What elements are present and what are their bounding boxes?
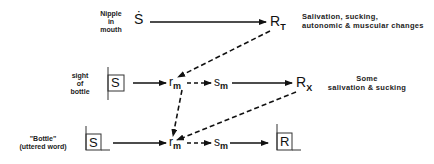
response-r: R bbox=[280, 135, 289, 149]
response-rx: RX bbox=[296, 75, 312, 95]
stimulus-label-nipple: Nipple in mouth bbox=[96, 10, 126, 34]
dashed-rm2-to-rm3 bbox=[173, 90, 182, 136]
label-line: Nipple bbox=[96, 10, 126, 18]
unconditioned-stimulus: Ṡ bbox=[134, 12, 143, 26]
mediator-r-sub: m bbox=[173, 81, 181, 91]
mediator-s-sub: m bbox=[220, 81, 228, 91]
response-rt: RT bbox=[270, 14, 286, 34]
label-line: sight bbox=[66, 72, 94, 80]
mediator-r-sub: m bbox=[173, 141, 181, 151]
label-line: mouth bbox=[96, 26, 126, 34]
dashed-rt-to-rm2 bbox=[178, 31, 270, 77]
desc-line: Some bbox=[327, 74, 407, 83]
mediator-sm-row3: sm bbox=[214, 135, 228, 153]
mediator-rm-row3: rm bbox=[169, 135, 181, 153]
desc-line: salivation & sucking bbox=[327, 83, 407, 92]
response-symbol: R bbox=[270, 13, 280, 29]
mediator-s-sub: m bbox=[220, 141, 228, 151]
response-rx-description: Some salivation & sucking bbox=[327, 74, 407, 92]
label-line: "Bottle" bbox=[12, 135, 74, 143]
response-symbol: R bbox=[296, 74, 306, 90]
label-line: in bbox=[96, 18, 126, 26]
response-rt-description: Salivation, sucking, autonomic & muscula… bbox=[302, 12, 424, 30]
label-line: of bbox=[66, 80, 94, 88]
label-line: bottle bbox=[66, 88, 94, 96]
response-subscript: T bbox=[280, 22, 286, 32]
stimulus-label-bottle-word: "Bottle" (uttered word) bbox=[12, 135, 74, 151]
stimulus-s-word: S bbox=[89, 136, 98, 150]
label-line: (uttered word) bbox=[12, 143, 74, 151]
stimulus-s-sight: S bbox=[111, 76, 120, 90]
desc-line: autonomic & muscular changes bbox=[302, 21, 424, 30]
mediator-sm-row2: sm bbox=[214, 75, 228, 93]
response-subscript: X bbox=[306, 83, 312, 93]
desc-line: Salivation, sucking, bbox=[302, 12, 424, 21]
stimulus-label-sight: sight of bottle bbox=[66, 72, 94, 96]
mediator-rm-row2: rm bbox=[169, 75, 181, 93]
